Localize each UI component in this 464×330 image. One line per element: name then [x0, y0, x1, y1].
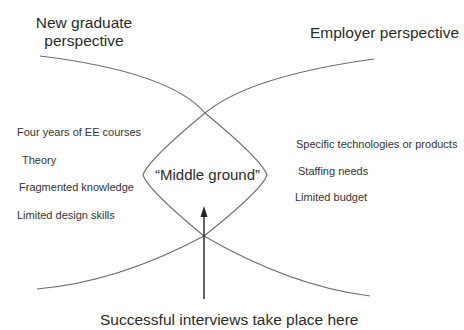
- arrow-head-icon: [201, 206, 208, 217]
- employer-item: Limited budget: [295, 192, 367, 203]
- employer-perspective-title: Employer perspective: [310, 25, 459, 41]
- graduate-item: Four years of EE courses: [17, 127, 141, 138]
- graduate-item: Limited design skills: [17, 210, 115, 221]
- employer-item: Specific technologies or products: [296, 139, 457, 150]
- arrow-caption: Successful interviews take place here: [100, 312, 358, 328]
- graduate-title-line2: perspective: [30, 32, 138, 50]
- perspectives-diagram: New graduate perspective Employer perspe…: [0, 0, 464, 330]
- graduate-title-line1: New graduate: [30, 14, 138, 32]
- graduate-item: Fragmented knowledge: [19, 182, 134, 193]
- graduate-item: Theory: [22, 155, 56, 166]
- middle-ground-label: “Middle ground”: [155, 167, 255, 182]
- graduate-perspective-title: New graduate perspective: [30, 14, 138, 50]
- employer-item: Staffing needs: [298, 166, 368, 177]
